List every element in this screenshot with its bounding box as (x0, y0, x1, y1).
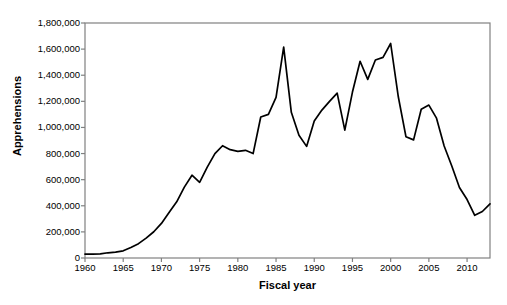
y-tick-label: 1,800,000 (14, 18, 80, 28)
x-tick-label: 1965 (103, 262, 143, 273)
chart-figure: Apprehensions Fiscal year 1,800,0001,600… (0, 0, 507, 305)
x-tick-label: 1975 (180, 262, 220, 273)
x-tick-label: 1985 (256, 262, 296, 273)
plot-border (85, 23, 490, 258)
x-tick-label: 2010 (447, 262, 487, 273)
y-tick-label: 600,000 (14, 175, 80, 185)
x-tick-label: 1995 (332, 262, 372, 273)
x-tick-label: 1990 (294, 262, 334, 273)
y-tick-label: 1,400,000 (14, 70, 80, 80)
x-tick-label: 1960 (65, 262, 105, 273)
y-tick-label: 1,600,000 (14, 44, 80, 54)
y-tick-label: 200,000 (14, 227, 80, 237)
x-tick-label: 1970 (141, 262, 181, 273)
x-tick-label: 2005 (409, 262, 449, 273)
y-tick-label: 1,200,000 (14, 96, 80, 106)
x-axis-title: Fiscal year (85, 279, 490, 291)
x-tick-label: 1980 (218, 262, 258, 273)
x-tick-label: 2000 (371, 262, 411, 273)
y-axis-tick-labels: 1,800,0001,600,0001,400,0001,200,0001,00… (10, 0, 80, 305)
y-tick-label: 800,000 (14, 149, 80, 159)
y-tick-label: 1,000,000 (14, 122, 80, 132)
y-tick-label: 400,000 (14, 201, 80, 211)
